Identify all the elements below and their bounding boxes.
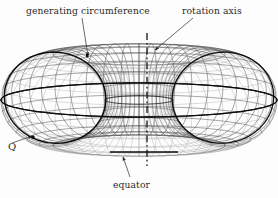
equator-leader [123,157,130,177]
torus-wireframe-svg [0,0,278,198]
torus-mesh [1,43,277,156]
label-point-q: Q [8,142,16,152]
label-rotation-axis: rotation axis [182,6,242,15]
label-generating-circumference: generating circumference [26,6,150,15]
torus-diagram-figure: generating circumference rotation axis e… [0,0,278,198]
point-q-marker [31,135,34,138]
label-equator: equator [113,180,150,189]
generating-circumference-marker [86,54,88,57]
